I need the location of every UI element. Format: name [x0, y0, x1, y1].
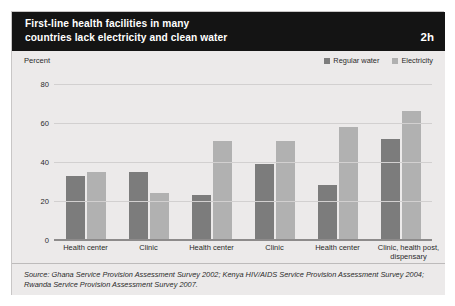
gridline-40: [54, 162, 432, 163]
y-axis-tick-20: 20: [41, 197, 49, 206]
gridline-20: [54, 201, 432, 202]
legend-label-electricity: Electricity: [401, 56, 433, 65]
y-axis-unit-label: Percent: [24, 56, 50, 65]
gridline-60: [54, 123, 432, 124]
y-axis-tick-60: 60: [41, 119, 49, 128]
x-axis-label: Health center: [55, 243, 117, 252]
bar: [402, 111, 421, 240]
gridline-0: [54, 240, 432, 241]
y-axis-tick-0: 0: [45, 236, 49, 245]
bar: [87, 172, 106, 240]
x-axis-label: Clinic: [244, 243, 306, 252]
x-axis-label: Clinic, health post, dispensary: [371, 243, 447, 261]
figure-number-badge: 2h: [421, 31, 434, 43]
bar: [381, 139, 400, 240]
title-bar: First-line health facilities in many cou…: [12, 12, 445, 51]
legend-item-regular-water: Regular water: [324, 56, 379, 65]
title-line-2: countries lack electricity and clean wat…: [25, 31, 355, 45]
chart-legend: Regular water Electricity: [324, 56, 433, 65]
gridline-80: [54, 84, 432, 85]
x-axis-label: Health center: [181, 243, 243, 252]
bar: [339, 127, 358, 240]
legend-item-electricity: Electricity: [392, 56, 433, 65]
bar: [276, 141, 295, 240]
title-line-1: First-line health facilities in many: [25, 18, 189, 29]
bar: [129, 172, 148, 240]
bar: [66, 176, 85, 240]
plot-region: 020406080: [54, 84, 432, 240]
legend-swatch-regular-water-icon: [324, 58, 330, 64]
figure-root: First-line health facilities in many cou…: [0, 0, 455, 306]
chart-panel: First-line health facilities in many cou…: [11, 11, 444, 295]
y-axis-tick-80: 80: [41, 80, 49, 89]
legend-swatch-electricity-icon: [392, 58, 398, 64]
x-axis-facility-labels: Health centerClinicHealth centerClinicHe…: [54, 243, 432, 263]
page-title: First-line health facilities in many cou…: [25, 17, 355, 45]
chart-area: Percent Regular water Electricity 020406…: [12, 51, 445, 263]
bar: [318, 185, 337, 240]
x-axis-label: Clinic: [118, 243, 180, 252]
source-note-box: Source: Ghana Service Provision Assessme…: [12, 263, 445, 295]
legend-label-regular-water: Regular water: [333, 56, 379, 65]
source-note: Source: Ghana Service Provision Assessme…: [24, 270, 434, 289]
y-axis-tick-40: 40: [41, 158, 49, 167]
bar: [213, 141, 232, 240]
x-axis-label: Health center: [307, 243, 369, 252]
